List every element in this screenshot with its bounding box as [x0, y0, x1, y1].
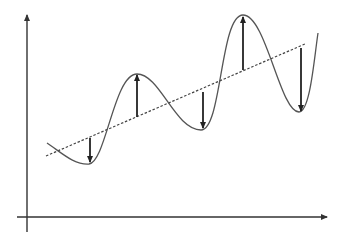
trend-line — [46, 44, 305, 156]
residual-diagram — [0, 0, 341, 243]
diagram-canvas — [0, 0, 341, 243]
oscillating-curve — [47, 15, 318, 164]
